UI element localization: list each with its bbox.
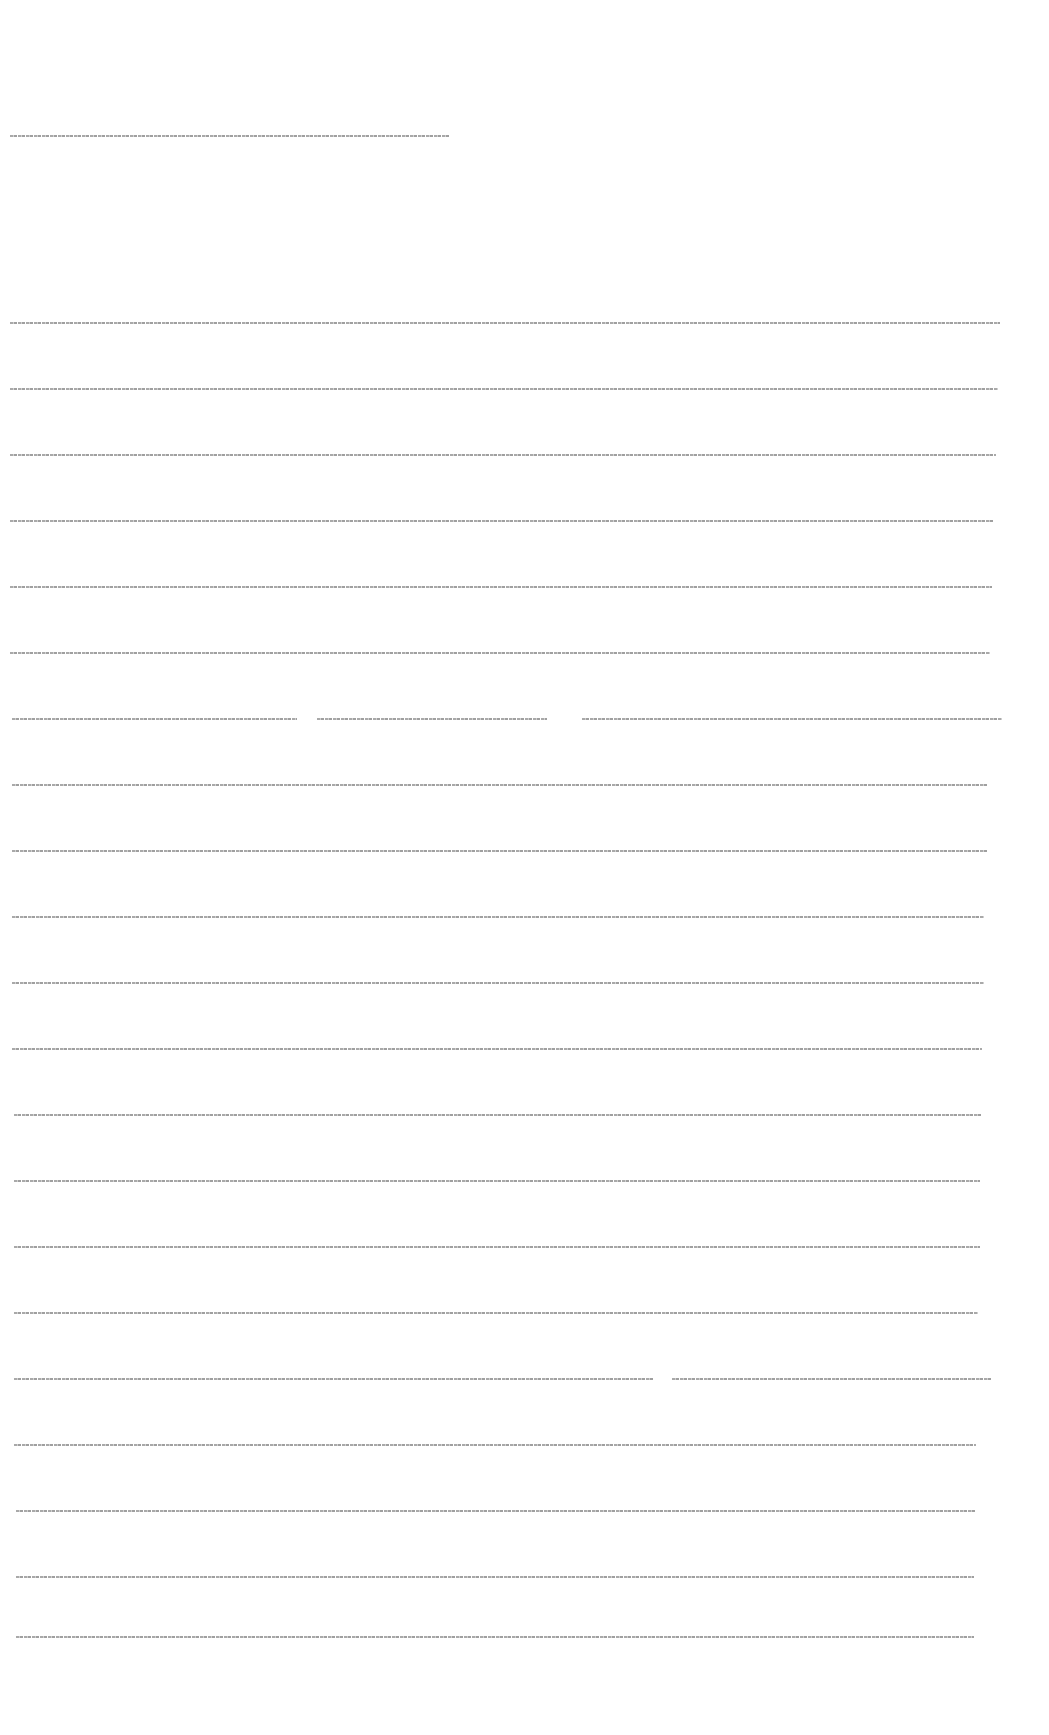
- body-line: [16, 1636, 974, 1638]
- text-run: [16, 1636, 974, 1638]
- body-line: [10, 586, 992, 588]
- text-run: [10, 586, 992, 588]
- text-run: [10, 454, 996, 456]
- body-line: [14, 1444, 976, 1446]
- body-line: [16, 1576, 974, 1578]
- text-run: [10, 322, 1000, 324]
- text-run: [16, 1510, 976, 1512]
- text-run: [12, 784, 988, 786]
- text-run: [12, 850, 987, 852]
- body-line: [12, 850, 987, 852]
- text-run: [12, 982, 984, 984]
- text-run: [10, 135, 450, 137]
- text-run: [12, 916, 984, 918]
- body-line: [14, 1312, 978, 1314]
- text-run: [672, 1378, 992, 1380]
- text-run: [12, 1048, 982, 1050]
- body-line: [12, 982, 984, 984]
- body-line: [14, 1246, 980, 1248]
- body-line: [12, 718, 1002, 720]
- text-run: [10, 388, 998, 390]
- body-line: [12, 784, 988, 786]
- body-line: [14, 1180, 980, 1182]
- body-line: [10, 322, 1000, 324]
- body-line: [14, 1378, 992, 1380]
- body-line: [10, 388, 998, 390]
- body-line: [10, 454, 996, 456]
- text-run: [14, 1378, 654, 1380]
- body-line: [12, 916, 984, 918]
- text-run: [14, 1246, 980, 1248]
- body-line: [12, 1048, 982, 1050]
- text-run: [12, 718, 297, 720]
- text-run: [582, 718, 1002, 720]
- text-run: [317, 718, 547, 720]
- title-line: [10, 135, 450, 137]
- text-run: [10, 652, 990, 654]
- body-line: [16, 1510, 976, 1512]
- text-run: [16, 1576, 974, 1578]
- text-run: [14, 1312, 978, 1314]
- body-line: [10, 520, 994, 522]
- text-run: [14, 1180, 980, 1182]
- text-run: [14, 1114, 982, 1116]
- body-line: [14, 1114, 982, 1116]
- text-run: [14, 1444, 976, 1446]
- text-run: [10, 520, 994, 522]
- body-line: [10, 652, 990, 654]
